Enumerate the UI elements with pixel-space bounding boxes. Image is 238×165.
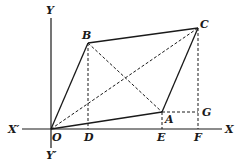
label-G: G — [202, 106, 211, 119]
label-Y-prime: Y′ — [46, 149, 57, 162]
side-CB — [88, 28, 198, 43]
label-D: D — [83, 131, 94, 144]
label-O: O — [52, 131, 62, 144]
label-Y: Y — [46, 4, 55, 17]
label-B: B — [81, 29, 91, 42]
label-A: A — [164, 113, 174, 126]
label-C: C — [200, 18, 209, 31]
parallelogram-diagram: Y Y′ X′ X O B C A G D E F — [0, 0, 238, 165]
diagram-svg: Y Y′ X′ X O B C A G D E F — [0, 0, 238, 165]
diagonal-BA — [88, 43, 162, 112]
label-X: X — [224, 123, 234, 136]
label-F: F — [193, 131, 203, 144]
side-OA — [51, 112, 162, 129]
label-E: E — [156, 131, 166, 144]
label-X-prime: X′ — [7, 123, 20, 136]
